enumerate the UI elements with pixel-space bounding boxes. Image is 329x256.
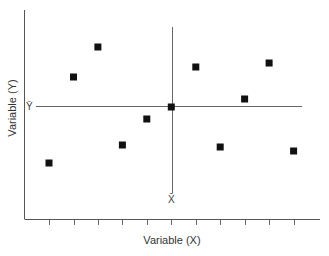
- x-axis-ticks: [50, 220, 295, 225]
- x-axis-label: Variable (X): [143, 234, 200, 246]
- data-points: [46, 44, 298, 167]
- scatter-chart: Ȳ X̄ Variable (X) Variable (Y): [0, 0, 329, 256]
- y-mean-label: Ȳ: [26, 101, 33, 112]
- data-point: [217, 144, 224, 151]
- data-point: [143, 116, 150, 123]
- x-mean-label: X̄: [168, 193, 175, 205]
- data-point: [46, 160, 53, 167]
- data-point: [168, 104, 175, 111]
- data-point: [290, 148, 297, 155]
- data-point: [266, 60, 273, 67]
- data-point: [94, 44, 101, 51]
- data-point: [70, 74, 77, 81]
- data-point: [192, 64, 199, 71]
- data-point: [241, 96, 248, 103]
- data-point: [119, 142, 126, 149]
- y-axis-label: Variable (Y): [6, 79, 18, 136]
